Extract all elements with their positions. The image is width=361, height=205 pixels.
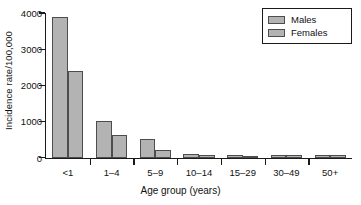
bar	[199, 155, 215, 158]
bar	[112, 135, 128, 157]
x-axis-tick-mark	[90, 159, 91, 165]
bar	[271, 155, 287, 158]
legend-label-males: Males	[291, 14, 316, 25]
bar	[243, 156, 259, 158]
legend-swatch-icon	[268, 29, 285, 37]
x-axis-line	[45, 158, 352, 159]
x-axis-tick-mark	[133, 159, 134, 165]
x-axis-tick-label: 10–14	[186, 167, 212, 178]
bar	[330, 155, 346, 158]
x-axis-tick-label: 5–9	[147, 167, 163, 178]
legend-label-females: Females	[291, 27, 327, 38]
bar	[286, 155, 302, 157]
bar	[227, 155, 243, 157]
x-axis-tick-mark	[308, 159, 309, 165]
x-axis-tick-mark	[265, 159, 266, 165]
bar	[96, 121, 112, 157]
y-axis-tick-mark	[39, 121, 45, 122]
bar	[52, 17, 68, 158]
x-axis-tick-label: 1–4	[104, 167, 120, 178]
bar	[68, 71, 84, 158]
x-axis-tick-label: 30–49	[273, 167, 299, 178]
legend-item-females: Females	[268, 26, 346, 39]
x-axis-title: Age group (years)	[0, 185, 361, 196]
y-axis-tick-mark	[39, 157, 45, 158]
bar	[155, 150, 171, 157]
x-axis-tick-mark	[221, 159, 222, 165]
legend-item-males: Males	[268, 13, 346, 26]
y-axis-tick-mark	[39, 49, 45, 50]
legend-swatch-icon	[268, 16, 285, 24]
bar	[315, 155, 331, 158]
bar	[183, 154, 199, 157]
bar	[140, 139, 156, 158]
y-axis-tick-labels: 01000200030004000	[12, 0, 42, 205]
x-axis-tick-label: <1	[62, 167, 73, 178]
bar-chart: Incidence rate/100,000 01000200030004000…	[0, 0, 361, 205]
x-axis-tick-mark	[177, 159, 178, 165]
x-axis-tick-label: 50+	[322, 167, 338, 178]
y-axis-tick-mark	[39, 85, 45, 86]
x-axis-tick-label: 15–29	[229, 167, 255, 178]
chart-legend: Males Females	[262, 8, 352, 44]
y-axis-tick-mark	[39, 12, 45, 13]
